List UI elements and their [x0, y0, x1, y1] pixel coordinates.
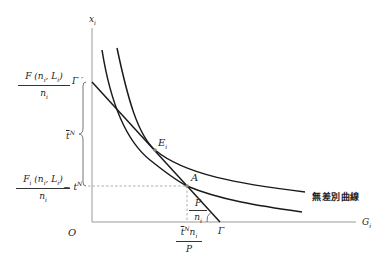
x-axis-label: Gi [362, 218, 371, 229]
indifference-curve-outer [117, 48, 305, 192]
x-tick-fraction: tNni P [176, 226, 202, 254]
origin-label: O [68, 228, 76, 238]
indifference-curve-label: 無差別曲線 [312, 190, 360, 203]
point-E-label: Ei [158, 138, 167, 150]
y-axis-label: xi [89, 15, 96, 26]
brace [79, 82, 86, 186]
gamma-label: Γ [218, 227, 224, 236]
y-tick-lower-fraction: Fi (ni, Li) ni [16, 175, 70, 203]
point-E-marker [153, 148, 157, 152]
point-A-marker [185, 184, 189, 188]
gamma-prime-label: Γ ′ [72, 77, 83, 86]
slope-fraction: P ni [189, 199, 207, 224]
y-tick-upper-fraction: F (ni, Li) ni [18, 72, 70, 100]
brace-label: tN [66, 130, 75, 141]
slope-angle-arc [207, 212, 211, 222]
y-tick-lower-suffix: − tN [63, 181, 82, 192]
point-A-label: A [191, 173, 198, 183]
